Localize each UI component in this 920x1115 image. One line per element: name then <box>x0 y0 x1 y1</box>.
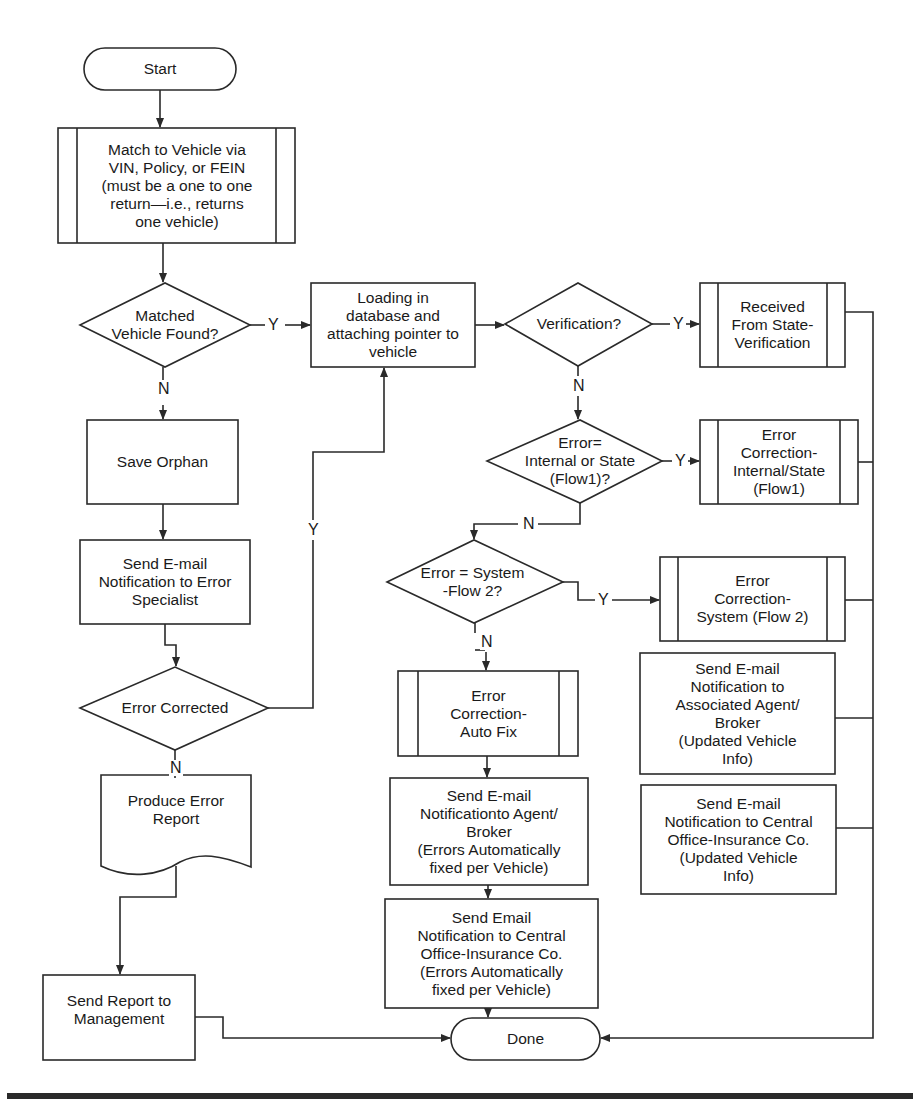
save-orphan-process: Save Orphan <box>87 420 238 504</box>
error-correction-internal-process: Error Correction- Internal/State (Flow1) <box>718 420 840 504</box>
error-correction-auto-process: Error Correction- Auto Fix <box>418 671 559 756</box>
email-agent-auto-process: Send E-mail Notificationto Agent/ Broker… <box>390 778 588 885</box>
match-vehicle-process: Match to Vehicle via VIN, Policy, or FEI… <box>78 128 276 243</box>
verification-yes-label: Y <box>672 316 685 332</box>
system-yes-label: Y <box>597 592 610 608</box>
send-report-management-process: Send Report to Management <box>43 975 195 1045</box>
email-central-office-auto-process: Send Email Notification to Central Offic… <box>385 899 598 1008</box>
error-internal-decision: Error= Internal or State (Flow1)? <box>510 432 650 490</box>
verification-decision: Verification? <box>520 305 638 343</box>
matched-yes-label: Y <box>267 317 280 333</box>
email-associated-agent-process: Send E-mail Notification to Associated A… <box>640 653 835 774</box>
internal-no-label: N <box>522 516 536 532</box>
email-error-specialist-process: Send E-mail Notification to Error Specia… <box>80 540 250 624</box>
matched-vehicle-found-decision: Matched Vehicle Found? <box>105 300 225 350</box>
loading-database-process: Loading in database and attaching pointe… <box>311 283 475 367</box>
page-bottom-rule <box>7 1093 913 1099</box>
error-corrected-decision: Error Corrected <box>105 690 245 726</box>
system-no-label: N <box>480 634 494 650</box>
matched-no-label: N <box>157 381 171 397</box>
received-from-state-process: Received From State- Verification <box>718 283 827 367</box>
produce-error-report-document: Produce Error Report <box>101 780 251 840</box>
error-correction-system-process: Error Correction- System (Flow 2) <box>678 557 827 641</box>
email-central-office-updated-process: Send E-mail Notification to Central Offi… <box>641 785 836 894</box>
done-terminator: Done <box>451 1018 600 1060</box>
start-terminator: Start <box>84 48 236 90</box>
internal-yes-label: Y <box>674 453 687 469</box>
corrected-yes-label: Y <box>307 522 320 538</box>
verification-no-label: N <box>572 378 586 394</box>
error-system-decision: Error = System -Flow 2? <box>410 560 535 604</box>
corrected-no-label: N <box>169 760 183 776</box>
